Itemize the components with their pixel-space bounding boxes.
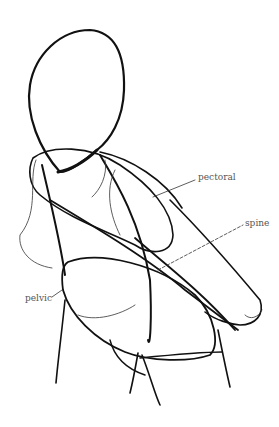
head-oval <box>29 30 124 172</box>
leg-knee <box>218 330 230 387</box>
label-pelvic: pelvic <box>25 293 52 303</box>
pelvis-outline <box>62 258 215 360</box>
neck-contour <box>92 160 106 197</box>
sketch-canvas: pectoral spine pelvic <box>0 0 279 427</box>
pelvic-leader <box>52 290 62 297</box>
back-contour <box>20 160 52 268</box>
jaw-line <box>58 150 97 172</box>
label-spine: spine <box>245 218 269 228</box>
leg-front-2 <box>142 355 160 405</box>
leg-front-1 <box>130 353 138 393</box>
hip-contour <box>78 305 135 318</box>
back-line <box>42 165 65 275</box>
label-pectoral: pectoral <box>198 172 236 182</box>
figure-sketch <box>0 0 279 427</box>
leg-back <box>56 300 65 383</box>
